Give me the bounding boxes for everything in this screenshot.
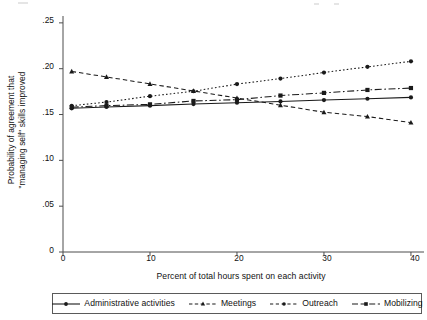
- legend-item-mobilizing[interactable]: Mobilizing: [351, 299, 423, 309]
- y-axis-ticks: [59, 23, 63, 252]
- legend-key-line-icon: [269, 299, 299, 309]
- plot-area: [58, 14, 424, 251]
- legend-item-outreach[interactable]: Outreach: [269, 299, 338, 309]
- legend-label: Meetings: [221, 299, 256, 308]
- series-administrative-activities: [70, 95, 413, 110]
- legend-label: Mobilizing: [384, 299, 423, 308]
- y-axis-tick-labels: .25 .20 .15 .10 .05 0: [24, 0, 54, 254]
- y-tick-label: .10: [28, 154, 54, 162]
- legend-item-administrative-activities[interactable]: Administrative activities: [51, 299, 175, 309]
- plot-svg: [58, 14, 424, 268]
- y-tick-label: .20: [28, 62, 54, 70]
- legend-label: Outreach: [302, 299, 338, 308]
- data-series-layer: [69, 59, 413, 124]
- series-mobilizing: [70, 86, 413, 109]
- x-axis-ticks: [63, 252, 411, 256]
- legend-label: Administrative activities: [84, 299, 175, 308]
- chart-figure: Probability of agreement that "managing …: [0, 0, 427, 320]
- legend-key-line-icon: [351, 299, 381, 309]
- y-tick-label: .25: [28, 16, 54, 24]
- y-axis-title-line-1: Probability of agreement that: [6, 2, 17, 258]
- y-tick-label: .15: [28, 108, 54, 116]
- y-tick-label: .05: [28, 200, 54, 208]
- legend-item-meetings[interactable]: Meetings: [188, 299, 256, 309]
- x-axis-title: Percent of total hours spent on each act…: [58, 271, 424, 281]
- legend-key-line-icon: [51, 299, 81, 309]
- chart-legend: Administrative activities Meetings Outre…: [52, 293, 422, 314]
- series-outreach: [70, 59, 413, 108]
- series-meetings: [69, 69, 413, 125]
- legend-key-line-icon: [188, 299, 218, 309]
